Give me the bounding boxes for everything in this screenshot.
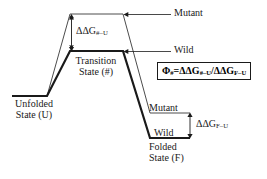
- phi-denominator-sub: F–U: [234, 69, 246, 76]
- ddg-folded-sub: F–U: [216, 122, 228, 129]
- ddg-barrier-sub: #–U: [96, 29, 108, 36]
- ddg-folded-label: ΔΔGF–U: [196, 119, 228, 130]
- ddg-folded-main: ΔΔG: [196, 118, 216, 129]
- mutant-barrier-leader-arrowhead: [124, 12, 129, 17]
- energy-profile-svg: [0, 0, 267, 179]
- unfolded-state-label: Unfolded State (U): [2, 99, 66, 121]
- phi-denominator-main: ΔΔG: [214, 65, 234, 76]
- transition-state-label: Transition State (#): [64, 56, 128, 78]
- wild-barrier-label: Wild: [174, 45, 194, 56]
- folded-state-label: Folded State (F): [149, 142, 184, 164]
- ddg-barrier-label: ΔΔG#–U: [76, 26, 108, 37]
- mutant-folded-label: Mutant: [149, 103, 178, 114]
- phi-equation-box: Φ#=ΔΔG#–U/ΔΔGF–U: [157, 62, 251, 80]
- phi-numerator-main: ΔΔG: [179, 65, 199, 76]
- ddg-barrier-main: ΔΔG: [76, 25, 96, 36]
- phi-numerator-sub: #–U: [200, 69, 211, 76]
- folded-state-line2: State (F): [149, 153, 184, 164]
- wild-folded-label: Wild: [154, 128, 174, 139]
- unfolded-state-line2: State (U): [2, 110, 66, 121]
- transition-state-line2: State (#): [64, 67, 128, 78]
- mutant-barrier-label: Mutant: [174, 8, 203, 19]
- energy-diagram: Mutant Wild ΔΔG#–U Transition State (#) …: [0, 0, 267, 179]
